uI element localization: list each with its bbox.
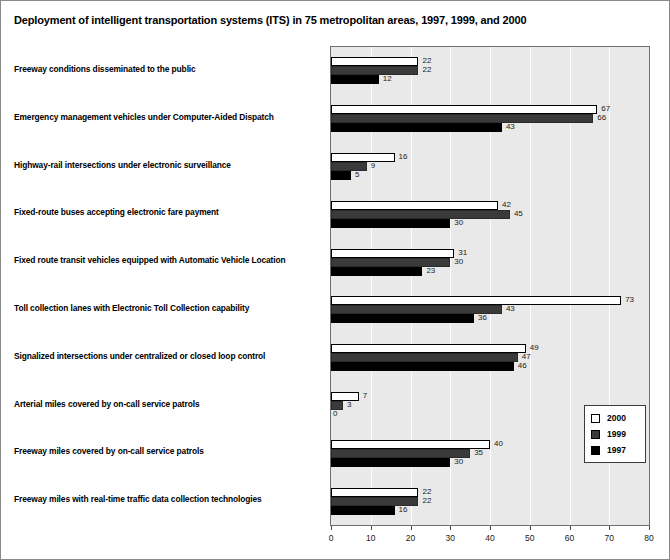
bar-1997[interactable] bbox=[331, 123, 502, 132]
bar-2000[interactable] bbox=[331, 296, 621, 305]
bar-1999[interactable] bbox=[331, 353, 518, 362]
category-label: Freeway miles covered by on-call service… bbox=[14, 446, 326, 456]
chart-figure: Deployment of intelligent transportation… bbox=[0, 0, 670, 560]
x-tick-mark-10 bbox=[371, 526, 372, 530]
bar-1997[interactable] bbox=[331, 362, 514, 371]
bar-row: 43 bbox=[331, 123, 649, 132]
bar-row: 23 bbox=[331, 267, 649, 276]
bar-value-label: 22 bbox=[422, 65, 431, 75]
bar-row: 46 bbox=[331, 362, 649, 371]
bar-2000[interactable] bbox=[331, 488, 418, 497]
bar-group: 424530 bbox=[331, 201, 649, 228]
bar-value-label: 5 bbox=[355, 170, 359, 180]
legend-swatch-1997 bbox=[591, 446, 600, 455]
bar-2000[interactable] bbox=[331, 153, 395, 162]
bar-value-label: 73 bbox=[625, 295, 634, 305]
bar-value-label: 30 bbox=[454, 257, 463, 267]
bar-value-label: 66 bbox=[597, 113, 606, 123]
bar-row: 42 bbox=[331, 201, 649, 210]
bar-row: 5 bbox=[331, 171, 649, 180]
x-tick-label-10: 10 bbox=[366, 533, 375, 543]
x-tick-mark-70 bbox=[609, 526, 610, 530]
bar-1999[interactable] bbox=[331, 162, 367, 171]
bar-value-label: 0 bbox=[333, 409, 337, 419]
bar-row: 7 bbox=[331, 392, 649, 401]
legend-item-2000[interactable]: 2000 bbox=[591, 411, 639, 425]
x-tick-mark-80 bbox=[649, 526, 650, 530]
bar-value-label: 46 bbox=[518, 361, 527, 371]
bar-value-label: 9 bbox=[371, 161, 375, 171]
bar-2000[interactable] bbox=[331, 249, 454, 258]
bar-value-label: 16 bbox=[399, 152, 408, 162]
bar-value-label: 12 bbox=[383, 74, 392, 84]
category-label: Fixed-route buses accepting electronic f… bbox=[14, 207, 326, 217]
bar-row: 12 bbox=[331, 75, 649, 84]
bar-group: 313023 bbox=[331, 249, 649, 276]
bar-1997[interactable] bbox=[331, 458, 450, 467]
bar-2000[interactable] bbox=[331, 201, 498, 210]
bar-2000[interactable] bbox=[331, 57, 418, 66]
bar-value-label: 23 bbox=[426, 266, 435, 276]
legend-label-2000: 2000 bbox=[607, 413, 626, 423]
bar-1997[interactable] bbox=[331, 75, 379, 84]
x-tick-mark-30 bbox=[450, 526, 451, 530]
bar-row: 16 bbox=[331, 153, 649, 162]
bar-row: 22 bbox=[331, 66, 649, 75]
x-tick-label-20: 20 bbox=[406, 533, 415, 543]
bar-group: 1695 bbox=[331, 153, 649, 180]
bar-group: 676643 bbox=[331, 105, 649, 132]
x-axis: 01020304050607080 bbox=[330, 526, 650, 552]
bar-row: 47 bbox=[331, 353, 649, 362]
category-label: Signalized intersections under centraliz… bbox=[14, 351, 326, 361]
bar-value-label: 16 bbox=[399, 505, 408, 515]
bar-1999[interactable] bbox=[331, 114, 593, 123]
category-label: Toll collection lanes with Electronic To… bbox=[14, 303, 326, 313]
x-tick-mark-60 bbox=[570, 526, 571, 530]
bar-1999[interactable] bbox=[331, 305, 502, 314]
bar-value-label: 49 bbox=[530, 343, 539, 353]
chart-legend: 200019991997 bbox=[584, 405, 646, 463]
bar-group: 222216 bbox=[331, 488, 649, 515]
chart-title: Deployment of intelligent transportation… bbox=[14, 14, 654, 27]
legend-item-1997[interactable]: 1997 bbox=[591, 443, 639, 457]
bar-row: 49 bbox=[331, 344, 649, 353]
bar-value-label: 45 bbox=[514, 209, 523, 219]
category-label: Arterial miles covered by on-call servic… bbox=[14, 399, 326, 409]
legend-swatch-2000 bbox=[591, 414, 600, 423]
bar-2000[interactable] bbox=[331, 392, 359, 401]
legend-label-1997: 1997 bbox=[607, 445, 626, 455]
bar-1999[interactable] bbox=[331, 210, 510, 219]
x-tick-label-60: 60 bbox=[565, 533, 574, 543]
x-tick-mark-20 bbox=[411, 526, 412, 530]
category-label: Freeway conditions disseminated to the p… bbox=[14, 64, 326, 74]
x-tick-mark-50 bbox=[530, 526, 531, 530]
bar-1997[interactable] bbox=[331, 314, 474, 323]
bar-1999[interactable] bbox=[331, 449, 470, 458]
bar-2000[interactable] bbox=[331, 440, 490, 449]
category-label: Freeway miles with real-time traffic dat… bbox=[14, 494, 326, 504]
bar-1999[interactable] bbox=[331, 66, 418, 75]
bar-value-label: 43 bbox=[506, 304, 515, 314]
bar-row: 22 bbox=[331, 497, 649, 506]
bar-row: 9 bbox=[331, 162, 649, 171]
bar-2000[interactable] bbox=[331, 105, 597, 114]
bar-row: 30 bbox=[331, 258, 649, 267]
bar-row: 66 bbox=[331, 114, 649, 123]
bar-1997[interactable] bbox=[331, 171, 351, 180]
category-label: Emergency management vehicles under Comp… bbox=[14, 112, 326, 122]
bar-value-label: 3 bbox=[347, 400, 351, 410]
bar-row: 22 bbox=[331, 57, 649, 66]
bar-1997[interactable] bbox=[331, 219, 450, 228]
category-label: Highway-rail intersections under electro… bbox=[14, 160, 326, 170]
bar-1997[interactable] bbox=[331, 506, 395, 515]
bar-row: 31 bbox=[331, 249, 649, 258]
bar-1997[interactable] bbox=[331, 267, 422, 276]
x-tick-label-80: 80 bbox=[644, 533, 653, 543]
bar-row: 45 bbox=[331, 210, 649, 219]
legend-item-1999[interactable]: 1999 bbox=[591, 427, 639, 441]
bar-row: 36 bbox=[331, 314, 649, 323]
bar-group: 222212 bbox=[331, 57, 649, 84]
category-label: Fixed route transit vehicles equipped wi… bbox=[14, 255, 326, 265]
bar-2000[interactable] bbox=[331, 344, 526, 353]
bar-value-label: 36 bbox=[478, 313, 487, 323]
